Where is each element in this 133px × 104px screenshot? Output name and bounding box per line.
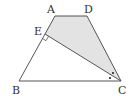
label-c: C bbox=[118, 84, 126, 97]
label-e: E bbox=[34, 25, 42, 38]
label-a: A bbox=[46, 3, 56, 16]
geometry-diagram: A D E B C bbox=[0, 0, 133, 104]
angle-dot-upper bbox=[112, 72, 114, 74]
label-d: D bbox=[84, 3, 93, 16]
label-b: B bbox=[12, 84, 20, 97]
diagram-canvas: A D E B C bbox=[0, 0, 133, 104]
angle-dot-lower bbox=[109, 77, 111, 79]
shaded-region-aecd bbox=[45, 16, 121, 81]
